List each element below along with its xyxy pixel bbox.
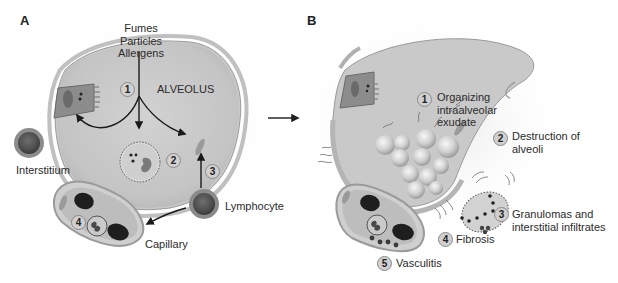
annotation-3-line-1: Granulomas and: [512, 208, 606, 221]
capillary-label: Capillary: [145, 238, 188, 250]
annotation-5: Vasculitis: [396, 257, 442, 269]
annotation-badge-2: 2: [493, 131, 508, 146]
annotation-1-line-2: intraalveolar: [437, 104, 497, 117]
annotation-4: Fibrosis: [456, 233, 495, 245]
annotation-2: Destruction of alveoli: [512, 130, 580, 155]
trigger-allergens: Allergens: [117, 47, 165, 60]
pathogenesis-diagram: A Fumes Particles Allergens ALVEOLUS 1 2…: [0, 0, 618, 283]
annotation-2-line-2: alveoli: [512, 143, 580, 156]
annotation-1-line-1: Organizing: [437, 91, 497, 104]
trigger-particles: Particles: [117, 35, 165, 48]
trigger-fumes: Fumes: [117, 22, 165, 35]
trigger-list: Fumes Particles Allergens: [117, 22, 165, 60]
annotation-badge-1: 1: [417, 92, 432, 107]
annotation-2-line-1: Destruction of: [512, 130, 580, 143]
annotation-badge-4: 4: [438, 232, 453, 247]
step-badge-4: 4: [71, 215, 86, 230]
annotation-3: Granulomas and interstitial infiltrates: [512, 208, 606, 233]
interstitium-label: Interstitium: [16, 164, 70, 176]
step-badge-3: 3: [205, 164, 220, 179]
annotation-badge-3: 3: [494, 207, 509, 222]
lymphocyte-label: Lymphocyte: [225, 200, 284, 212]
alveolus-label: ALVEOLUS: [157, 83, 214, 95]
annotation-3-line-2: interstitial infiltrates: [512, 221, 606, 234]
annotation-1-line-3: exudate: [437, 116, 497, 129]
step-badge-2: 2: [166, 153, 181, 168]
panel-b-letter: B: [307, 13, 316, 28]
annotation-1: Organizing intraalveolar exudate: [437, 91, 497, 129]
annotation-badge-5: 5: [377, 256, 392, 271]
step-badge-1: 1: [120, 82, 135, 97]
panel-a-letter: A: [20, 13, 29, 28]
